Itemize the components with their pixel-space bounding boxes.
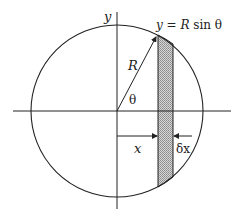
circle-diagram: y y = R sin θ R θ x δx xyxy=(0,0,238,213)
radius-arrow xyxy=(117,37,156,111)
formula-eq: = xyxy=(163,18,181,32)
formula-rest: sin θ xyxy=(190,18,223,32)
formula-label: y = R sin θ xyxy=(155,18,222,32)
strip-width-label: δx xyxy=(176,142,190,156)
angle-label: θ xyxy=(129,93,136,107)
x-distance-label: x xyxy=(134,141,142,156)
y-axis-label: y xyxy=(103,9,112,24)
formula-R: R xyxy=(179,18,189,32)
radius-label: R xyxy=(127,58,138,73)
